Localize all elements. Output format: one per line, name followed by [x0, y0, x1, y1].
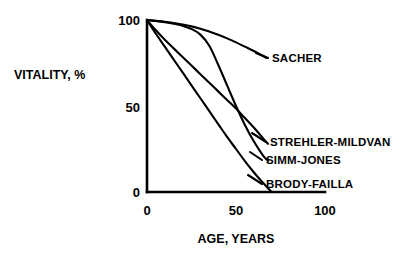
- series-line-strehler-mildvan: [147, 20, 268, 144]
- x-axis-title: AGE, YEARS: [198, 232, 275, 246]
- series-label-brody-failla: BRODY-FAILLA: [266, 178, 353, 190]
- vitality-vs-age-line-chart: 100 50 0 0 50 100 VITALITY, % AGE, YEARS…: [0, 0, 417, 254]
- x-tick-label-100: 100: [314, 203, 336, 218]
- y-tick-label-50: 50: [126, 100, 140, 115]
- series-label-simm-jones: SIMM-JONES: [266, 154, 341, 166]
- x-tick-label-50: 50: [229, 203, 243, 218]
- chart-figure: 100 50 0 0 50 100 VITALITY, % AGE, YEARS…: [0, 0, 417, 254]
- leader-line-sacher: [256, 53, 268, 58]
- y-axis-title: VITALITY, %: [14, 68, 85, 82]
- y-tick-label-0: 0: [133, 185, 140, 200]
- series-label-sacher: SACHER: [272, 52, 322, 64]
- x-tick-label-0: 0: [143, 203, 150, 218]
- series-label-strehler-mildvan: STREHLER-MILDVAN: [270, 136, 391, 148]
- y-tick-label-100: 100: [118, 13, 140, 28]
